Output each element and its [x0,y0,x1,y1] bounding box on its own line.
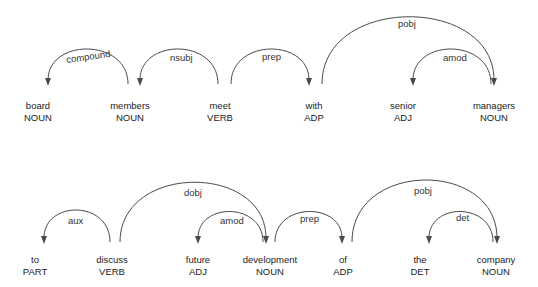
arc-label: pobj [414,185,432,196]
arc-label: dobj [184,187,202,198]
token-word: the [413,254,426,265]
arc-label: prep [262,51,281,62]
arc-amod: amod [410,49,491,86]
token-tag: NOUN [116,112,144,123]
token-tag: ADP [304,112,324,123]
token-word: future [186,254,210,265]
token-tag: NOUN [256,266,284,277]
token-tag: NOUN [482,266,510,277]
token-word: company [477,254,516,265]
token-word: members [110,100,150,111]
token-word: senior [390,100,416,111]
arc-amod-2: amod [195,211,263,244]
arc-prep-2: prep [275,211,345,244]
token-tag: PART [23,266,48,277]
arc-label: nsubj [170,52,193,63]
arc-compound: compound [45,48,128,86]
arc-label: amod [443,52,467,63]
arc-aux: aux [41,210,110,244]
arc-det: det [426,211,493,244]
arc-label: pobj [398,18,416,29]
token-word: board [26,100,50,111]
token-tag: ADJ [394,112,412,123]
arc-prep: prep [231,49,312,86]
token-tag: ADP [333,266,353,277]
token-word: development [243,254,298,265]
arc-label: det [456,212,470,223]
token-tag: DET [411,266,430,277]
token-tag: NOUN [480,112,508,123]
arc-label: amod [220,215,244,226]
token-word: managers [473,100,515,111]
token-word: meet [209,100,230,111]
token-tag: VERB [99,266,125,277]
arc-label: prep [300,213,319,224]
token-tag: NOUN [24,112,52,123]
arc-nsubj: nsubj [137,49,218,86]
dependency-diagram: compound nsubj prep pobj amod board NOUN… [0,0,538,287]
arc-label: aux [68,215,84,226]
token-word: of [339,254,347,265]
token-tag: ADJ [189,266,207,277]
token-row-1: board NOUN members NOUN meet VERB with A… [24,100,515,123]
arc-dobj: dobj [120,182,269,244]
arc-pobj-2: pobj [352,180,500,244]
token-row-2: to PART discuss VERB future ADJ developm… [23,254,516,277]
arc-pobj: pobj [322,17,497,86]
token-word: discuss [96,254,128,265]
token-tag: VERB [207,112,233,123]
token-word: to [31,254,39,265]
token-word: with [305,100,323,111]
